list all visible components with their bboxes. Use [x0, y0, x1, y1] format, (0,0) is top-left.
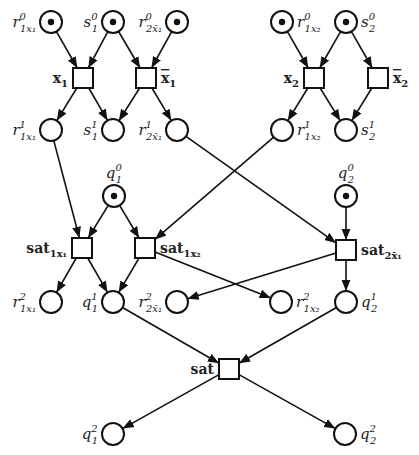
transition-sat: [219, 359, 239, 379]
transition-label-sat2x1bar: sat2x̄₁: [361, 242, 402, 261]
place-s1_1: [102, 119, 124, 141]
place-r1x2_1: [271, 119, 293, 141]
arc-x2-to-r1x2_1: [288, 88, 308, 121]
transition-label-x1: x1: [53, 70, 68, 89]
place-q1_1: [102, 291, 124, 313]
place-label-q1_0: q01: [106, 162, 123, 185]
place-label-r1x1_2: r21x₁: [12, 291, 36, 314]
transition-x2: [304, 68, 324, 88]
transition-label-x2: x2: [284, 70, 299, 89]
arc-q2_1-to-sat: [239, 307, 336, 363]
place-label-s2_1: s12: [361, 119, 375, 142]
place-r1x2_0: [271, 11, 293, 33]
arc-sat2x1bar-to-r2x1bar_2: [188, 253, 336, 299]
transition-x1bar: [136, 68, 156, 88]
transition-x1: [73, 68, 93, 88]
place-label-r1x2_2: r21x₂: [296, 291, 320, 314]
arc-s1_0-to-x1bar: [119, 31, 141, 68]
arc-x1-to-s1_1: [89, 88, 108, 120]
arc-q1_0-to-sat1x2: [120, 205, 139, 238]
place-q1_2: [102, 423, 124, 445]
arc-s1_0-to-x1: [88, 32, 107, 68]
place-label-s1_0: s01: [84, 11, 99, 34]
place-r1x1_0: [40, 11, 62, 33]
transition-sat2x1bar: [336, 240, 356, 260]
arc-q1_0-to-sat1x1: [88, 205, 108, 238]
arc-x1bar-to-r2x1bar_1: [152, 88, 171, 121]
place-label-q1_2: q21: [82, 423, 98, 446]
arc-x2bar-to-s2_1: [352, 88, 372, 121]
place-s2_0: [335, 11, 357, 33]
transition-label-x1bar: x1: [161, 70, 176, 89]
place-r1x1_1: [40, 119, 62, 141]
place-label-q2_0: q02: [338, 162, 355, 185]
transition-label-x2bar: x2: [393, 70, 408, 89]
place-label-s1_1: s11: [84, 119, 98, 142]
place-label-r2x1bar_2: r22x̄₁: [138, 291, 162, 314]
place-label-r1x2_1: r11x₂: [297, 119, 321, 142]
place-s1_0: [102, 11, 124, 33]
arc-sat-to-q2_2: [239, 375, 335, 429]
place-r1x2_2: [270, 291, 292, 313]
token-icon: [174, 19, 180, 25]
place-r1x1_2: [40, 291, 62, 313]
arc-sat-to-q1_2: [123, 375, 219, 429]
place-q2_1: [335, 291, 357, 313]
arc-sat1x1-to-q1_1: [88, 258, 108, 292]
place-s2_1: [335, 119, 357, 141]
arc-q1_1-to-sat: [123, 308, 219, 364]
token-icon: [110, 19, 116, 25]
place-q2_2: [334, 423, 356, 445]
petri-net-diagram: r01x₁s01r02x̄₁r01x₂s02r11x₁s11r12x̄₁r11x…: [0, 0, 419, 455]
place-r2x1bar_1: [166, 119, 188, 141]
place-label-r1x1_1: r11x₁: [12, 119, 36, 142]
place-label-q2_1: q12: [361, 291, 377, 314]
arc-r2x1bar_0-to-x1bar: [152, 32, 172, 68]
arc-x1bar-to-s1_1: [119, 88, 140, 121]
arc-x1-to-r1x1_1: [57, 88, 77, 121]
arc-r1x1_0-to-x1: [56, 32, 77, 68]
transition-sat1x2: [135, 238, 155, 258]
place-q2_0: [335, 185, 357, 207]
place-r2x1bar_0: [166, 11, 188, 33]
place-label-q1_1: q11: [82, 291, 98, 314]
place-label-r1x1_0: r01x₁: [12, 11, 36, 34]
token-icon: [343, 19, 349, 25]
place-label-r2x1bar_1: r12x̄₁: [138, 119, 162, 142]
place-label-r2x1bar_0: r02x̄₁: [138, 11, 162, 34]
place-label-r1x2_0: r01x₂: [297, 11, 321, 34]
arc-r2x1bar_1-to-sat2x1bar: [186, 136, 336, 243]
nodes-layer: [40, 11, 388, 445]
arc-x2-to-s2_1: [320, 88, 340, 121]
transition-label-sat1x1: sat1x₁: [26, 240, 67, 259]
place-r2x1bar_2: [166, 291, 188, 313]
arc-r1x2_0-to-x2: [287, 32, 308, 68]
token-icon: [343, 193, 349, 199]
transition-sat1x1: [72, 238, 92, 258]
arc-r1x2_1-to-sat1x2: [155, 137, 274, 239]
arc-sat1x1-to-r1x1_2: [56, 258, 76, 292]
labels-layer: r01x₁s01r02x̄₁r01x₂s02r11x₁s11r12x̄₁r11x…: [12, 11, 408, 446]
place-label-s2_0: s02: [361, 11, 376, 34]
arc-sat1x2-to-q1_1: [119, 258, 139, 293]
token-icon: [48, 19, 54, 25]
token-icon: [111, 193, 117, 199]
arc-r1x1_1-to-sat1x1: [54, 141, 80, 238]
token-icon: [279, 19, 285, 25]
arc-s2_0-to-x2: [320, 32, 341, 68]
arc-s2_0-to-x2bar: [351, 32, 372, 68]
place-label-q2_2: q22: [360, 423, 376, 446]
place-q1_0: [103, 185, 125, 207]
transition-label-sat: sat: [191, 361, 215, 377]
transition-x2bar: [368, 68, 388, 88]
